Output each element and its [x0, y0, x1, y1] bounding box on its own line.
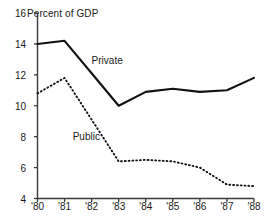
x-tick-label: '80: [25, 201, 51, 212]
x-tick-label: '86: [187, 201, 213, 212]
x-tick-label: '87: [214, 201, 240, 212]
x-tick-label: '83: [106, 201, 132, 212]
axis-lines: [38, 13, 255, 199]
y-tick-label: 12: [4, 69, 26, 80]
y-tick-label: 14: [4, 38, 26, 49]
x-tick-label: '85: [160, 201, 186, 212]
x-tick-label: '81: [52, 201, 78, 212]
x-tick-label: '84: [133, 201, 159, 212]
series-line-private: [38, 41, 255, 106]
series-annotation-public: Public: [73, 131, 100, 142]
y-tick-label: 4: [4, 193, 26, 204]
x-tick-label: '88: [241, 201, 265, 212]
x-tick-label: '82: [79, 201, 105, 212]
series-annotation-private: Private: [92, 55, 123, 66]
y-tick-label: 6: [4, 162, 26, 173]
chart-plot-svg: [0, 0, 265, 219]
chart-container: Percent of GDP 46810121416 '80'81'82'83'…: [0, 0, 265, 219]
y-tick-label: 16: [4, 8, 26, 19]
y-tick-label: 10: [4, 100, 26, 111]
series-line-public: [38, 78, 255, 186]
y-tick-label: 8: [4, 131, 26, 142]
